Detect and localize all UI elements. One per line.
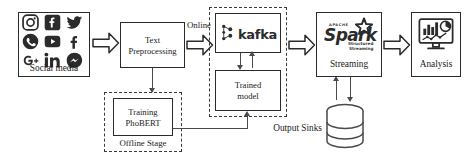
arrow-kafka-to-spark [288,33,316,61]
youtube-icon [44,33,61,50]
connector-training-to-trained-v [247,116,248,129]
arrow-spark-to-analysis [383,33,411,61]
arrow-social-to-preprocessing [92,31,120,59]
social-media-icon-grid [19,13,89,61]
training-phobert-line1: Training [114,107,172,117]
trained-model-node: Trained model [215,70,281,111]
streaming-label: Streaming [316,59,382,69]
kafka-logo: kafka [220,24,277,45]
connector-sink-to-spark-up [336,80,337,100]
diagram-canvas: Social media Text Preprocessing Online T… [0,0,465,160]
output-sinks-cylinder-icon [325,103,365,153]
trained-model-line2: model [216,91,280,101]
whatsapp-icon [22,33,39,50]
facebook-icon [44,14,61,31]
facebook-f-icon [66,33,83,50]
text-preprocessing-line1: Text [121,35,184,45]
trained-model-line1: Trained [216,80,280,90]
output-sinks-label: Output Sinks [250,123,322,134]
twitter-icon [66,14,83,31]
connector-training-to-trained-h [173,128,248,129]
training-phobert-node: Training PhoBERT [113,98,173,136]
spark-sub2-label: Streaming [349,46,374,51]
connector-sink-to-spark-up-head [333,76,339,81]
kafka-label: kafka [238,27,277,42]
offline-stage-label: Offline Stage [104,138,182,149]
connector-spark-to-sink-down-head [347,97,353,102]
dashboard-monitor-icon [417,16,455,58]
kafka-glyph-icon [220,24,234,45]
connector-model-to-kafka-up [252,55,253,68]
instagram-icon [22,14,39,31]
connector-preprocessing-to-training [152,68,153,90]
spark-logo: APACHE Spark Structured Streaming [320,17,378,51]
social-media-label: Social media [18,63,90,74]
analysis-label: Analysis [411,59,461,69]
connector-spark-to-sink-down [350,77,351,98]
connector-model-to-kafka-up-head [249,51,255,56]
training-phobert-line2: PhoBERT [114,118,172,128]
text-preprocessing-line2: Preprocessing [121,46,184,56]
